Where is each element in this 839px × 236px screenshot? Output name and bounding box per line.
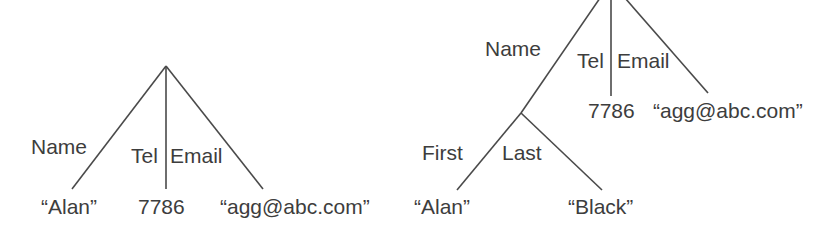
left-edge-label-email: Email: [170, 145, 223, 166]
left-edge-email: [166, 66, 263, 189]
right-leaf-first-value: “Alan”: [414, 196, 470, 217]
right-tree-edges: [457, 0, 708, 190]
right-edge-email: [611, 0, 708, 93]
left-edge-name: [72, 66, 166, 189]
right-edge-label-tel: Tel: [577, 50, 604, 71]
right-leaf-tel-value: 7786: [588, 100, 635, 121]
left-tree-edges: [72, 66, 263, 189]
left-edge-label-tel: Tel: [131, 145, 158, 166]
right-edge-label-name: Name: [485, 38, 541, 59]
left-leaf-tel-value: 7786: [138, 196, 185, 217]
right-edge-label-last: Last: [502, 142, 542, 163]
left-leaf-email-value: “agg@abc.com”: [220, 196, 370, 217]
right-edge-label-first: First: [422, 142, 463, 163]
right-edge-label-email: Email: [617, 50, 670, 71]
left-leaf-name-value: “Alan”: [41, 196, 97, 217]
diagram-canvas: Name Tel Email “Alan” 7786 “agg@abc.com”…: [0, 0, 839, 236]
right-leaf-email-value: “agg@abc.com”: [653, 100, 803, 121]
right-leaf-last-value: “Black”: [568, 196, 633, 217]
left-edge-label-name: Name: [31, 136, 87, 157]
